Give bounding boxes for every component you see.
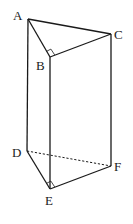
vertex-label-D: D [12,145,21,160]
edge-BC [50,34,111,57]
vertex-label-B: B [36,58,45,73]
vertex-label-F: F [114,159,121,174]
edge-DE [27,151,50,189]
vertex-label-C: C [114,27,123,42]
edge-DF-hidden [27,151,111,166]
vertex-label-A: A [13,8,23,23]
edge-EF [50,166,111,189]
prism-figure: A B C D E F [0,0,133,224]
edge-AD [27,19,28,151]
vertex-label-E: E [45,193,53,208]
prism-diagram: A B C D E F [0,0,133,224]
edge-AC [28,19,111,34]
